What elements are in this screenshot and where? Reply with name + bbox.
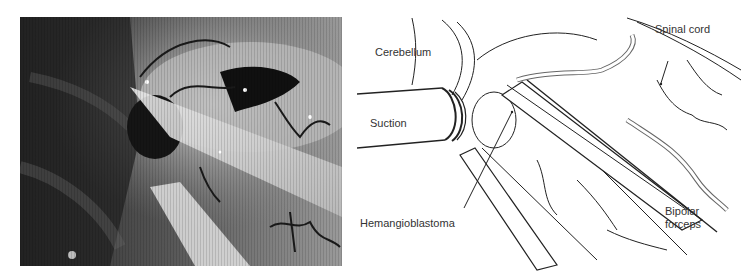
- label-bipolar-line1: Bipolar: [665, 205, 701, 218]
- illustration-line-art: [357, 0, 741, 278]
- label-hemangioblastoma: Hemangioblastoma: [360, 217, 455, 230]
- label-spinal-cord: Spinal cord: [655, 23, 710, 36]
- intraoperative-photo: [20, 17, 342, 266]
- photo-image: [20, 17, 342, 266]
- label-bipolar-line2: forceps: [665, 218, 701, 231]
- label-suction: Suction: [370, 117, 407, 130]
- surgical-illustration: Cerebellum Spinal cord Suction Hemangiob…: [357, 0, 741, 278]
- label-bipolar-forceps: Bipolar forceps: [665, 205, 701, 231]
- label-cerebellum: Cerebellum: [375, 46, 431, 59]
